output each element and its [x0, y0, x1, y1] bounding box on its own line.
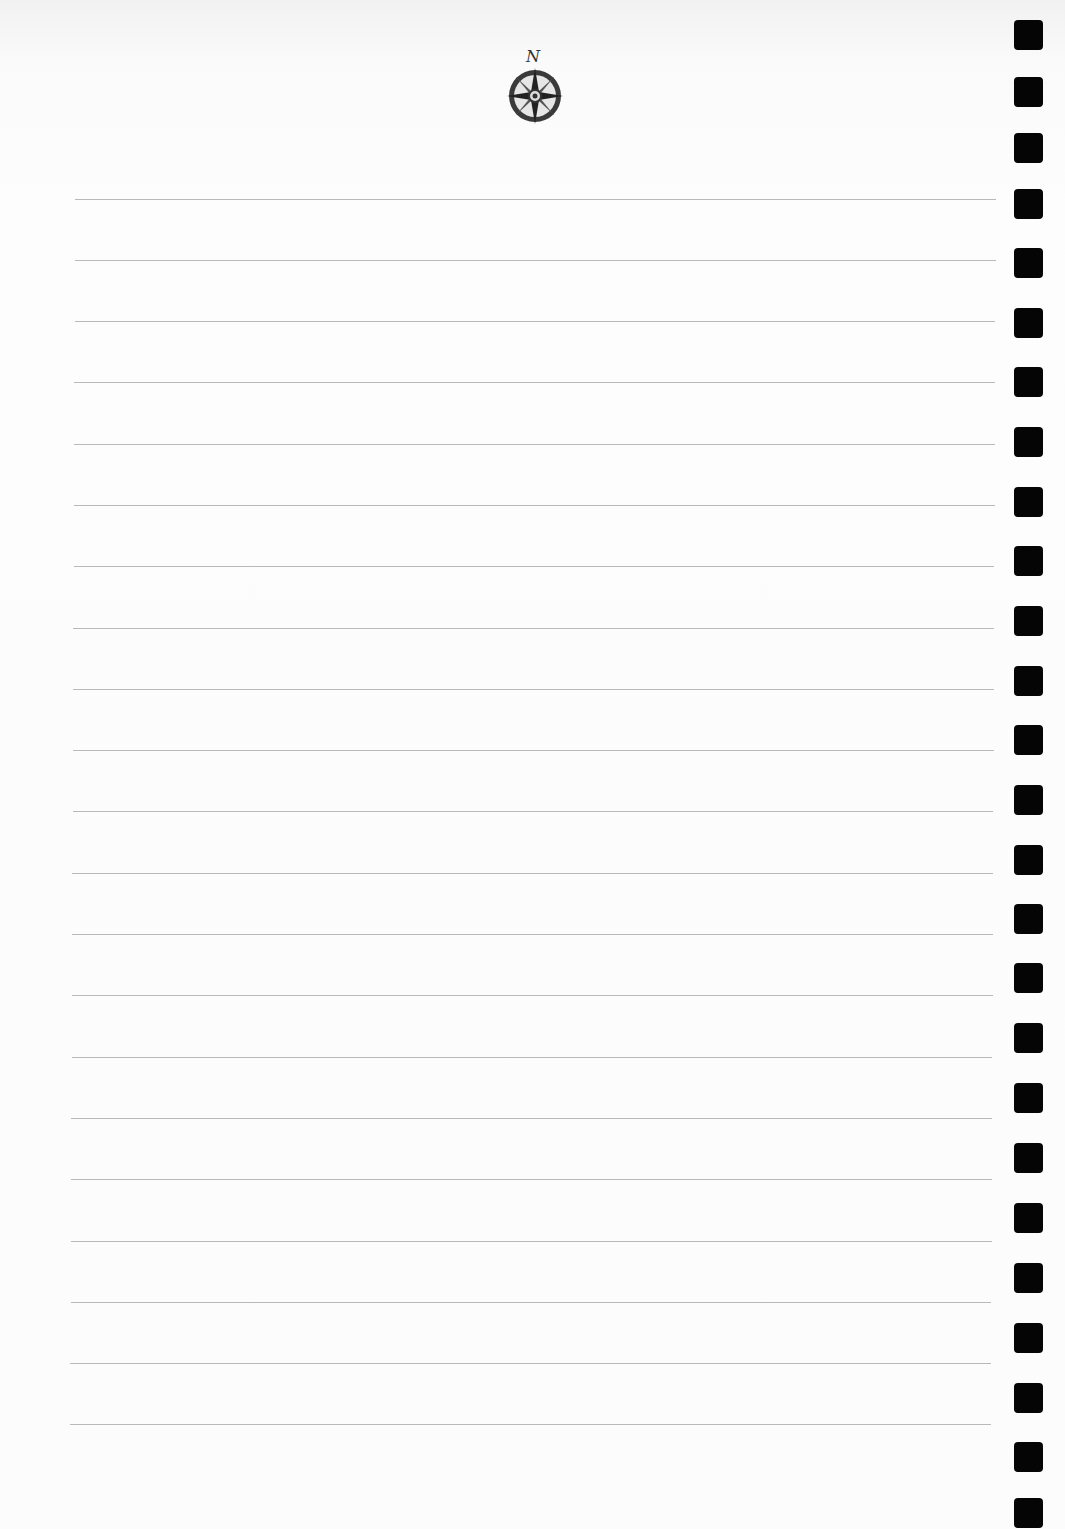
binding-hole: [1014, 1323, 1043, 1353]
ruled-line: [72, 1057, 992, 1058]
ruled-line: [73, 689, 994, 690]
ruled-line: [71, 1118, 992, 1119]
ruled-line: [70, 1363, 991, 1364]
binding-hole: [1014, 1383, 1043, 1413]
ruled-line: [73, 628, 994, 629]
binding-hole: [1014, 785, 1043, 815]
notebook-page: N: [0, 0, 1065, 1529]
ruled-line: [74, 382, 995, 383]
binding-hole: [1014, 1203, 1043, 1233]
ruled-line: [73, 750, 994, 751]
binding-hole: [1014, 248, 1043, 278]
binding-hole: [1014, 963, 1043, 993]
binding-hole: [1014, 189, 1043, 219]
binding-hole: [1014, 546, 1043, 576]
binding-hole: [1014, 606, 1043, 636]
binding-hole: [1014, 1498, 1043, 1528]
binding-hole: [1014, 904, 1043, 934]
ruled-line: [74, 566, 994, 567]
north-letter: N: [525, 47, 541, 66]
ruled-line: [74, 505, 995, 506]
ruled-line: [75, 199, 996, 200]
ruled-line: [72, 873, 993, 874]
binding-hole: [1014, 427, 1043, 457]
ruled-line: [71, 1241, 992, 1242]
binding-hole: [1014, 666, 1043, 696]
binding-hole: [1014, 1143, 1043, 1173]
binding-hole: [1014, 133, 1043, 163]
binding-hole: [1014, 1083, 1043, 1113]
binding-hole: [1014, 487, 1043, 517]
compass-rose-icon: N: [503, 46, 567, 128]
binding-hole: [1014, 308, 1043, 338]
ruled-line: [73, 811, 993, 812]
ruled-line: [70, 1424, 991, 1425]
binding-hole: [1014, 20, 1043, 50]
ruled-line: [75, 321, 995, 322]
ruled-line: [71, 1302, 991, 1303]
binding-hole: [1014, 845, 1043, 875]
binding-hole: [1014, 1442, 1043, 1472]
ruled-line: [72, 995, 993, 996]
binding-hole: [1014, 1023, 1043, 1053]
binding-hole: [1014, 725, 1043, 755]
ruled-line: [72, 934, 993, 935]
ruled-line: [74, 444, 995, 445]
binding-hole: [1014, 1263, 1043, 1293]
ruled-line: [71, 1179, 992, 1180]
binding-hole: [1014, 77, 1043, 107]
binding-hole: [1014, 367, 1043, 397]
ruled-line: [75, 260, 996, 261]
